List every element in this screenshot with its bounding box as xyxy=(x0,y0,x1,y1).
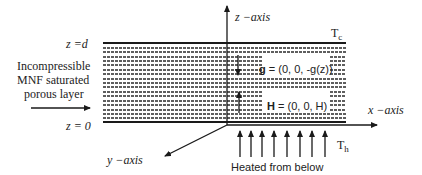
heating-arrows xyxy=(240,131,325,157)
heating-label: Heated from below xyxy=(231,161,323,173)
layer-label-line1: Incompressible xyxy=(17,59,90,73)
bottom-boundary-label: z = 0 xyxy=(65,119,91,133)
y-axis-arrow xyxy=(165,125,227,156)
hot-temperature-label: Th xyxy=(337,138,349,154)
top-boundary-label: z =d xyxy=(65,37,89,51)
magnetic-field-vector-label: H = (0, 0, H) xyxy=(267,100,327,112)
porous-layer-diagram: z −axis x −axis y −axis z =d z = 0 Incom… xyxy=(0,0,422,175)
y-axis-label: y −axis xyxy=(106,153,143,167)
cold-temperature-label: Tc xyxy=(331,26,342,42)
z-axis-label: z −axis xyxy=(234,10,270,24)
x-axis-label: x −axis xyxy=(367,103,404,117)
layer-label-line3: porous layer xyxy=(24,87,84,101)
gravity-vector-label: g = (0, 0, -g(z)) xyxy=(259,63,333,75)
layer-label-line2: MNF saturated xyxy=(17,73,89,87)
